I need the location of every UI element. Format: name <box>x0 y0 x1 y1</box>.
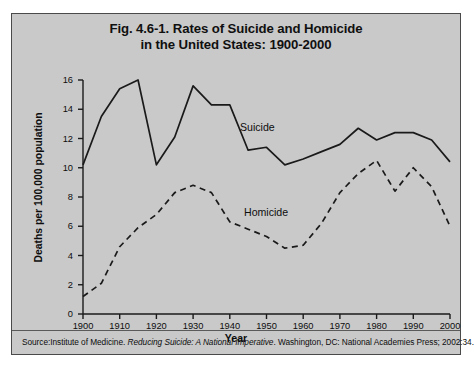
series-label-suicide: Suicide <box>240 121 275 133</box>
y-tick-label: 6 <box>49 221 73 231</box>
chart-panel: Fig. 4.6-1. Rates of Suicide and Homicid… <box>12 14 460 330</box>
data-series-group <box>83 80 450 296</box>
y-tick-label: 4 <box>49 251 73 261</box>
y-tick-label: 12 <box>49 134 73 144</box>
y-tick-label: 16 <box>49 75 73 85</box>
y-axis-ticks <box>78 80 83 314</box>
source-bar: Source:Institute of Medicine. Reducing S… <box>12 330 460 354</box>
y-tick-label: 14 <box>49 104 73 114</box>
source-citation: Source:Institute of Medicine. Reducing S… <box>22 337 474 347</box>
y-tick-label: 2 <box>49 280 73 290</box>
chart-svg <box>12 14 460 330</box>
x-axis-ticks <box>83 314 450 319</box>
series-label-homicide: Homicide <box>244 206 288 218</box>
figure-container: Fig. 4.6-1. Rates of Suicide and Homicid… <box>11 13 461 355</box>
axes <box>78 80 450 319</box>
series-line-homicide <box>83 160 450 296</box>
y-tick-label: 8 <box>49 192 73 202</box>
source-title-italic: Reducing Suicide: A National Imperative <box>128 337 274 347</box>
source-suffix: . Washington, DC: National Academies Pre… <box>273 337 473 347</box>
y-tick-label: 0 <box>49 309 73 319</box>
y-axis-title: Deaths per 100,000 population <box>33 98 44 278</box>
source-prefix: Source:Institute of Medicine. <box>22 337 128 347</box>
y-tick-label: 10 <box>49 163 73 173</box>
plot-area: 0246810121416 19001910192019301940195019… <box>12 14 460 330</box>
